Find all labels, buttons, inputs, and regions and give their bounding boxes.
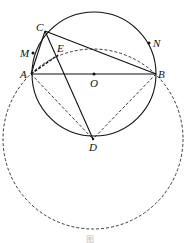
geometry-diagram: C M E A O B N D 图: [0, 0, 187, 243]
segment-ae: [31, 55, 58, 74]
label-d: D: [88, 141, 97, 153]
point-n: [148, 42, 151, 45]
segment-ad: [31, 74, 93, 139]
label-e: E: [56, 42, 64, 54]
point-m: [32, 52, 35, 55]
label-a: A: [19, 68, 27, 80]
label-b: B: [158, 68, 165, 80]
label-o: O: [90, 77, 98, 89]
point-d: [92, 138, 94, 140]
label-c: C: [36, 21, 44, 33]
label-m: M: [19, 47, 30, 59]
point-o: [93, 73, 96, 76]
label-n: N: [152, 37, 161, 49]
figure-caption: 图: [86, 235, 94, 243]
